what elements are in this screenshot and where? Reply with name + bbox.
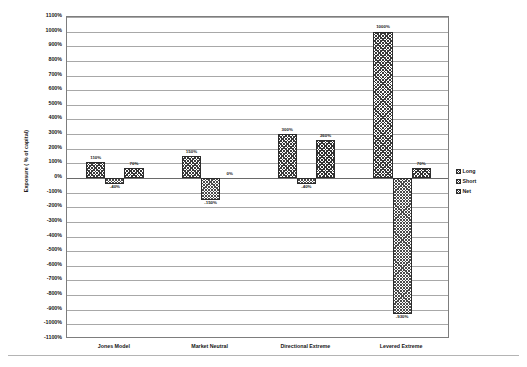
y-axis-tick: -900% — [22, 306, 62, 311]
y-axis-tick: 1100% — [22, 13, 62, 18]
y-axis-tick: 100% — [22, 160, 62, 165]
bar-value-label: 70% — [417, 162, 426, 166]
bar-long — [182, 156, 201, 178]
chart-page: Exposure ( % of capital) 1100%1000%900%8… — [0, 0, 527, 367]
bar-group: 110%-40%70% — [67, 17, 163, 337]
bar-value-label: -150% — [204, 201, 217, 205]
bar-long — [373, 32, 392, 178]
bar-long — [86, 162, 105, 178]
legend-item-short[interactable]: Short — [456, 177, 520, 186]
y-axis-tick: 300% — [22, 130, 62, 135]
bar-value-label: 0% — [227, 172, 233, 176]
bar-net — [412, 168, 431, 178]
x-axis-category-label: Market Neutral — [191, 343, 228, 349]
bar-net — [124, 168, 143, 178]
legend-swatch-icon — [456, 189, 461, 194]
bar-long — [278, 134, 297, 178]
bar-net — [316, 140, 335, 178]
y-axis-tick: -600% — [22, 262, 62, 267]
bar-short — [393, 178, 412, 314]
legend-item-label: Net — [463, 189, 472, 194]
x-axis-category-label: Levered Extreme — [380, 343, 423, 349]
y-axis-tick: 500% — [22, 101, 62, 106]
y-axis-tick: 400% — [22, 116, 62, 121]
bar-value-label: 70% — [130, 162, 139, 166]
y-axis-tick: -1100% — [22, 335, 62, 340]
bar-group: 150%-150%0% — [163, 17, 259, 337]
chart-legend: LongShortNet — [456, 167, 520, 197]
y-axis-tick: 0% — [22, 174, 62, 179]
y-axis-tick: -200% — [22, 204, 62, 209]
bar-group: 300%-40%260% — [259, 17, 355, 337]
y-axis-tick: -100% — [22, 189, 62, 194]
x-axis-category-label: Jones Model — [98, 343, 130, 349]
bar-value-label: 1000% — [376, 25, 390, 29]
y-axis-tick: -1000% — [22, 321, 62, 326]
y-axis-tick: -800% — [22, 291, 62, 296]
plot-area: 110%-40%70%150%-150%0%300%-40%260%1000%-… — [66, 16, 449, 338]
y-axis-tick-labels: 1100%1000%900%800%700%600%500%400%300%20… — [24, 16, 64, 338]
y-axis-tick: 700% — [22, 72, 62, 77]
legend-swatch-icon — [456, 179, 461, 184]
bar-value-label: -930% — [396, 315, 409, 319]
bar-value-label: 300% — [282, 128, 293, 132]
y-axis-tick: -400% — [22, 233, 62, 238]
legend-item-net[interactable]: Net — [456, 187, 520, 196]
bottom-divider — [8, 355, 519, 356]
bar-value-label: 260% — [320, 134, 331, 138]
legend-item-label: Long — [463, 169, 476, 174]
bar-value-label: -40% — [301, 185, 311, 189]
y-axis-tick: -500% — [22, 248, 62, 253]
bar-group: 1000%-930%70% — [354, 17, 449, 337]
y-axis-tick: 600% — [22, 87, 62, 92]
bar-value-label: -40% — [110, 185, 120, 189]
bar-series-container: 110%-40%70%150%-150%0%300%-40%260%1000%-… — [67, 17, 448, 337]
y-axis-tick: 1000% — [22, 28, 62, 33]
legend-item-long[interactable]: Long — [456, 167, 520, 176]
bar-value-label: 150% — [186, 150, 197, 154]
y-axis-tick: -700% — [22, 277, 62, 282]
legend-swatch-icon — [456, 169, 461, 174]
y-axis-tick: 900% — [22, 43, 62, 48]
y-axis-tick: -300% — [22, 218, 62, 223]
y-axis-tick: 200% — [22, 145, 62, 150]
y-axis-tick: 800% — [22, 57, 62, 62]
bar-short — [201, 178, 220, 200]
bar-value-label: 110% — [90, 156, 101, 160]
x-axis-category-label: Directional Extreme — [280, 343, 330, 349]
legend-item-label: Short — [463, 179, 477, 184]
